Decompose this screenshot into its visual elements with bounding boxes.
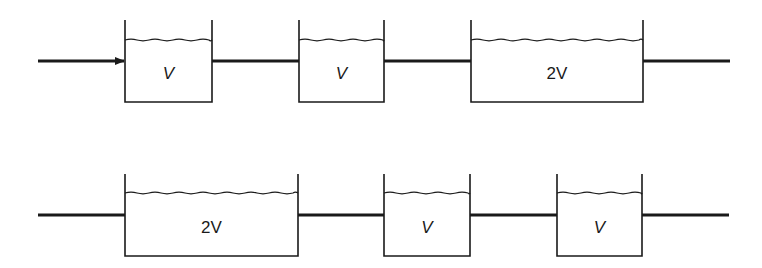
tank: V: [557, 174, 642, 256]
configuration-b: 2VVV: [38, 174, 729, 256]
tank: V: [384, 174, 470, 256]
tank: V: [125, 20, 212, 102]
tank-volume-label: V: [336, 64, 349, 83]
tank: V: [299, 20, 384, 102]
tanks-in-series-diagram: VV2V2VVV: [0, 0, 762, 268]
tank-walls: [125, 20, 212, 102]
liquid-level: [125, 39, 212, 41]
tank-volume-label: V: [421, 218, 434, 237]
tank-walls: [299, 20, 384, 102]
liquid-level: [471, 39, 643, 41]
tank-volume-label: V: [163, 64, 176, 83]
configuration-a: VV2V: [38, 20, 730, 102]
tank-volume-label: V: [594, 218, 607, 237]
tank: 2V: [471, 20, 643, 102]
tank-volume-label: 2V: [547, 64, 568, 83]
tank: 2V: [125, 174, 298, 256]
liquid-level: [299, 39, 384, 41]
liquid-level: [125, 192, 298, 194]
tank-walls: [125, 174, 298, 256]
tank-volume-label: 2V: [201, 218, 222, 237]
tank-walls: [557, 174, 642, 256]
tank-walls: [384, 174, 470, 256]
liquid-level: [384, 192, 470, 194]
liquid-level: [557, 192, 642, 194]
tank-walls: [471, 20, 643, 102]
